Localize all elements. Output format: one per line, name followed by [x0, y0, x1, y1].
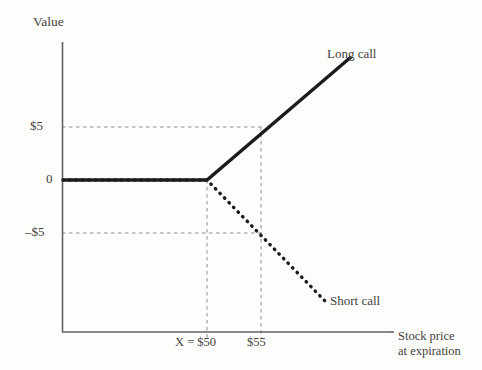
- x-axis-title: Stock price at expiration: [398, 329, 461, 359]
- x-tick-label-strike: X = $50: [175, 335, 216, 350]
- x-axis-title-line2: at expiration: [398, 344, 461, 358]
- series-label-long-call: Long call: [327, 46, 376, 61]
- payoff-plot: [0, 0, 482, 370]
- series-label-short-call: Short call: [330, 293, 380, 308]
- x-axis-title-line1: Stock price: [398, 329, 455, 343]
- y-tick-label-plus5: $5: [30, 118, 43, 133]
- y-tick-label-zero: 0: [46, 171, 53, 186]
- short-call-payoff-line: [63, 180, 325, 301]
- long-call-payoff-line: [63, 57, 351, 180]
- option-payoff-figure: Value $5 0 –$5 X = $50 $55 Stock price a…: [0, 0, 482, 370]
- y-axis-title: Value: [33, 14, 64, 30]
- x-tick-label-price55: $55: [247, 335, 266, 350]
- y-tick-label-minus5: –$5: [25, 224, 45, 239]
